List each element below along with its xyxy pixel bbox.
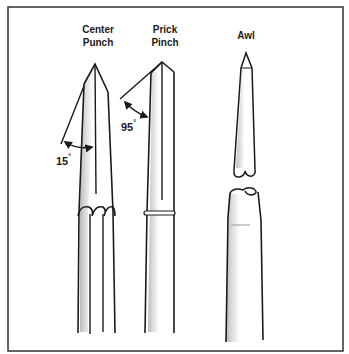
label-center-punch: Center Punch [78,23,118,49]
angle-arc-arrow [125,102,147,117]
degree-symbol: ° [133,119,136,126]
angle-value: 95 [121,121,133,133]
label-awl-line1: Awl [231,29,261,42]
degree-symbol: ° [68,153,71,160]
label-center-punch-line2: Punch [78,36,118,49]
break-line-top [234,170,255,177]
figure-border [8,7,343,351]
angle-guide-line [61,86,84,144]
prick-punch-illustration [120,62,175,333]
awl-illustration [226,53,263,342]
center-punch-illustration [61,64,115,334]
label-prick-punch-line2: Pinch [148,36,182,49]
angle-value: 15 [56,155,68,167]
collar-ring [144,211,175,215]
angle-label-center-punch: 15° [56,155,71,167]
label-center-punch-line1: Center [78,23,118,36]
label-prick-punch: Prick Pinch [148,23,182,49]
diagram-canvas [0,0,349,354]
angle-label-prick-punch: 95° [121,121,136,133]
label-prick-punch-line1: Prick [148,23,182,36]
label-awl: Awl [231,29,261,42]
